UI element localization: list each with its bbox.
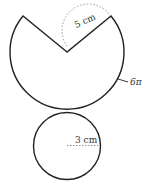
sector-shape <box>10 16 124 109</box>
arc-length-label: 6π <box>130 77 143 87</box>
base-radius-label: 3 cm <box>75 135 98 145</box>
slant-height-label: 5 cm <box>73 11 98 30</box>
arc-label-leader-line <box>118 79 128 82</box>
base-circle <box>34 113 101 180</box>
cone-net-diagram: 5 cm 6π 3 cm <box>0 0 151 193</box>
